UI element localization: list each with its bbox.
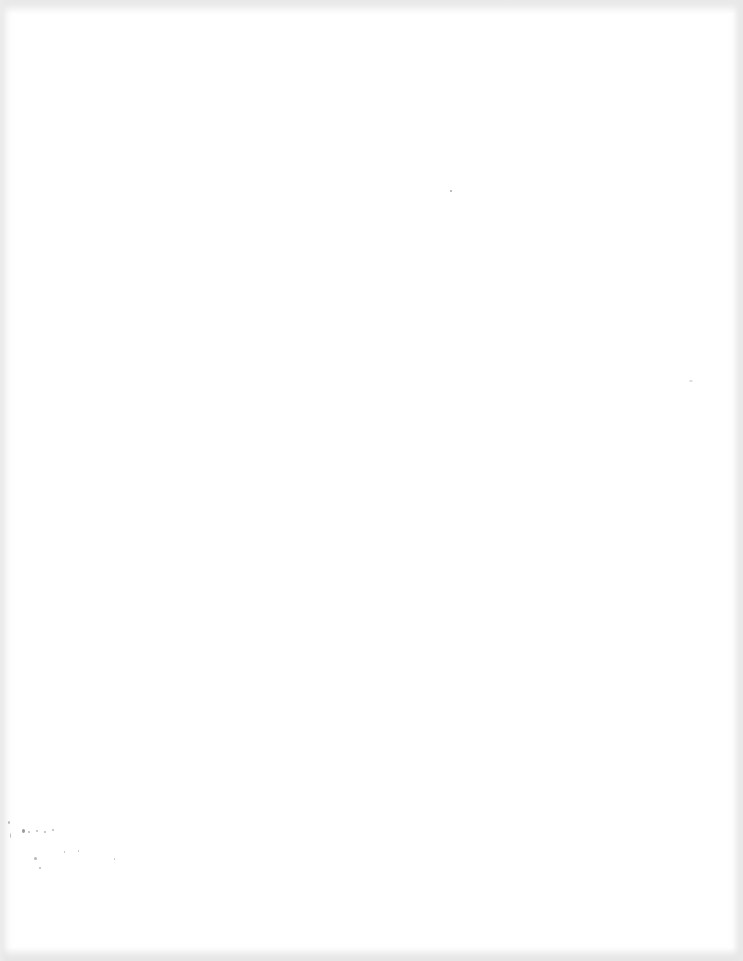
scan-right-edge-shadow [733,0,743,961]
scan-top-edge-shadow [0,0,743,14]
scan-speck [689,380,693,382]
scan-noise-cluster [4,815,74,875]
scan-speck [22,829,25,833]
scan-speck [450,190,452,192]
scan-speck [64,851,65,853]
scan-speck [10,833,11,838]
scan-speck [44,831,46,833]
scanned-page [0,0,743,961]
scan-speck [36,830,38,832]
scan-speck [8,821,10,824]
scan-bottom-edge-shadow [0,947,743,961]
scan-speck [78,850,79,852]
scan-speck [114,858,115,860]
scan-speck [34,857,37,860]
scan-speck [39,867,41,869]
scan-speck [28,831,30,833]
scan-speck [52,829,54,831]
